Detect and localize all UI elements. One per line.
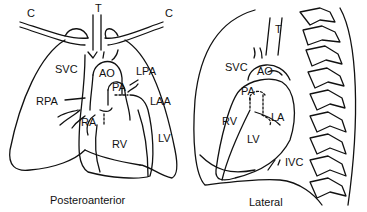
label-lateral-ivc: IVC	[285, 157, 303, 168]
label-lateral-pa: PA	[241, 86, 255, 97]
label-lateral-lv: LV	[247, 134, 260, 145]
vertebrae	[300, 8, 346, 198]
label-laa: LAA	[150, 96, 171, 107]
caption-lateral: Lateral	[249, 197, 283, 208]
label-ra: RA	[81, 117, 96, 128]
label-lateral-trachea: T	[275, 24, 282, 35]
label-lv: LV	[158, 133, 171, 144]
label-svc: SVC	[55, 64, 78, 75]
label-lateral-aorta: AO	[257, 66, 273, 77]
lateral-view-drawing	[194, 8, 356, 205]
label-lateral-svc: SVC	[225, 62, 248, 73]
label-clavicle-right: C	[165, 8, 173, 19]
label-lpa: LPA	[136, 66, 156, 77]
label-rv: RV	[112, 139, 127, 150]
label-aorta: AO	[99, 68, 115, 79]
label-lateral-rv: RV	[222, 116, 237, 127]
label-trachea: T	[95, 3, 102, 14]
label-lateral-la: LA	[271, 112, 284, 123]
label-pa: PA	[112, 82, 126, 93]
label-clavicle-left: C	[27, 8, 35, 19]
label-rpa: RPA	[36, 96, 58, 107]
caption-posteroanterior: Posteroanterior	[50, 195, 125, 206]
